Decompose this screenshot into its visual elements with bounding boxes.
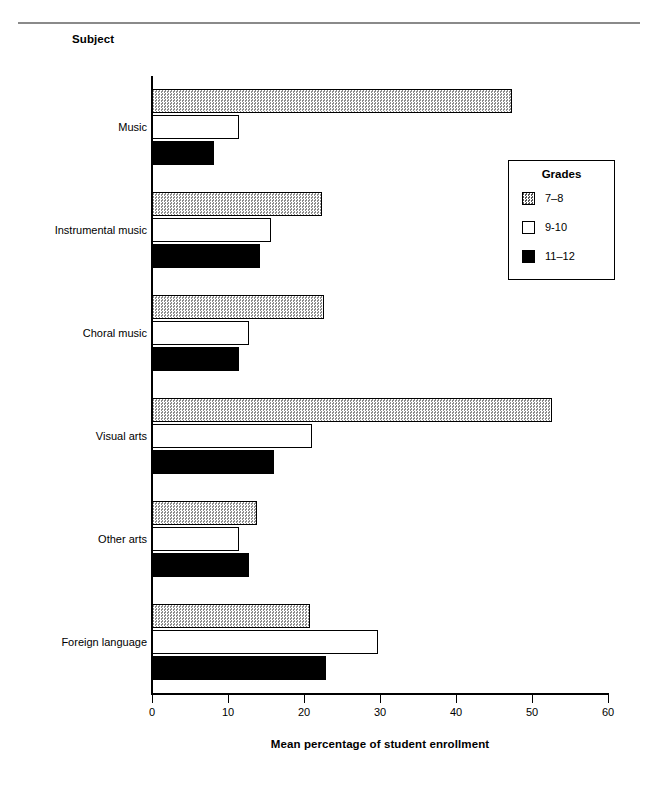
category-label: Visual arts — [0, 430, 147, 442]
bar — [152, 398, 552, 422]
x-tick-30 — [380, 695, 381, 703]
x-tick-20 — [304, 695, 305, 703]
x-tick-label-10: 10 — [208, 706, 248, 718]
bar — [152, 244, 260, 268]
bar — [152, 450, 274, 474]
bar — [152, 424, 312, 448]
x-tick-40 — [456, 695, 457, 703]
bar — [152, 527, 239, 551]
x-tick-label-50: 50 — [512, 706, 552, 718]
category-label: Instrumental music — [0, 224, 147, 236]
bar — [152, 141, 214, 165]
bar — [152, 501, 257, 525]
legend-title: Grades — [509, 168, 614, 180]
bar — [152, 218, 271, 242]
x-tick-label-20: 20 — [284, 706, 324, 718]
legend-entry: 11–12 — [522, 249, 575, 263]
legend-entry: 7–8 — [522, 191, 563, 205]
x-axis-title: Mean percentage of student enrollment — [152, 738, 608, 750]
category-label: Music — [0, 121, 147, 133]
x-tick-50 — [532, 695, 533, 703]
bar — [152, 115, 239, 139]
chart-plot-area: 0102030405060 MusicInstrumental musicCho… — [0, 0, 654, 796]
y-axis-line — [151, 76, 153, 694]
x-tick-60 — [608, 695, 609, 703]
legend-entry-label: 9-10 — [545, 221, 567, 233]
x-tick-label-40: 40 — [436, 706, 476, 718]
legend-entry: 9-10 — [522, 220, 567, 234]
legend-swatch-icon — [522, 221, 535, 234]
legend-box: Grades 7–89-1011–12 — [508, 160, 615, 280]
legend-entry-label: 11–12 — [545, 250, 575, 262]
bar — [152, 656, 326, 680]
bar — [152, 604, 310, 628]
bar — [152, 553, 249, 577]
legend-swatch-icon — [522, 192, 535, 205]
x-tick-0 — [152, 695, 153, 703]
x-tick-label-0: 0 — [132, 706, 172, 718]
x-tick-label-30: 30 — [360, 706, 400, 718]
category-label: Other arts — [0, 533, 147, 545]
bar — [152, 347, 239, 371]
bar — [152, 321, 249, 345]
bar — [152, 630, 378, 654]
x-tick-label-60: 60 — [588, 706, 628, 718]
bar — [152, 192, 322, 216]
bar — [152, 89, 512, 113]
category-label: Foreign language — [0, 636, 147, 648]
legend-swatch-icon — [522, 250, 535, 263]
category-label: Choral music — [0, 327, 147, 339]
bar — [152, 295, 324, 319]
legend-entry-label: 7–8 — [545, 192, 563, 204]
x-tick-10 — [228, 695, 229, 703]
